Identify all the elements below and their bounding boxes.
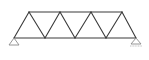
diagram-background	[0, 0, 149, 60]
truss-diagram	[0, 0, 149, 60]
